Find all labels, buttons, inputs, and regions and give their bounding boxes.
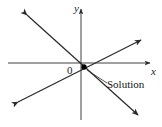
solution-label: Solution <box>107 79 144 90</box>
y-axis-label: y <box>74 3 79 14</box>
graph-canvas <box>0 0 162 127</box>
x-axis-label: x <box>151 66 156 77</box>
solution-leader-line <box>87 70 107 83</box>
solution-leader <box>87 70 107 83</box>
origin-label: 0 <box>67 65 73 76</box>
solution-point-dot <box>81 64 86 69</box>
line-positive-slope-segment <box>18 40 141 102</box>
line-positive-slope <box>18 40 141 102</box>
coordinate-graph-figure: y x 0 Solution <box>0 0 162 127</box>
